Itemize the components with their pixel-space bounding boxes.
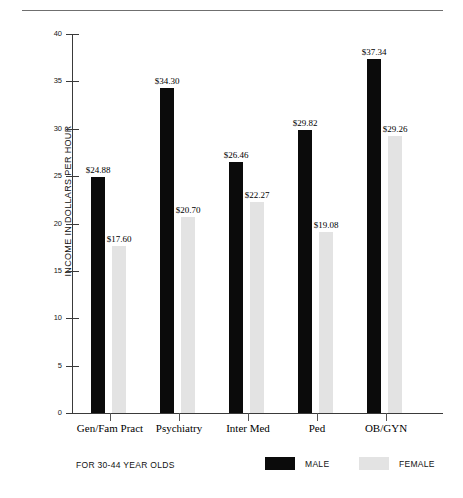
x-axis-line bbox=[72, 413, 443, 414]
bar-female-inter-med[interactable]: $22.27 bbox=[250, 202, 264, 413]
top-divider-rule bbox=[22, 10, 443, 11]
y-tick-10: 10 bbox=[66, 318, 79, 319]
x-axis-label-inter-med: Inter Med bbox=[226, 422, 270, 434]
y-tick-35: 35 bbox=[66, 81, 79, 82]
x-tick-ob-gyn bbox=[386, 413, 387, 421]
legend-entry-male: MALE bbox=[265, 457, 329, 470]
bar-label-male-ob-gyn: $37.34 bbox=[362, 47, 387, 57]
legend-label-female: FEMALE bbox=[399, 459, 435, 469]
x-axis-label-gen-fam-pract: Gen/Fam Pract bbox=[77, 422, 143, 434]
y-tick-label-15: 15 bbox=[54, 266, 62, 275]
bar-label-female-ob-gyn: $29.26 bbox=[383, 124, 408, 134]
y-tick-label-30: 30 bbox=[54, 124, 62, 133]
bar-male-inter-med[interactable]: $26.46 bbox=[229, 162, 243, 413]
x-tick-ped bbox=[317, 413, 318, 421]
y-tick-15: 15 bbox=[66, 271, 79, 272]
legend-swatch-male-icon bbox=[265, 457, 295, 470]
y-tick-label-10: 10 bbox=[54, 313, 62, 322]
bar-male-ped[interactable]: $29.82 bbox=[298, 130, 312, 413]
bar-label-female-gen-fam-pract: $17.60 bbox=[107, 234, 132, 244]
legend-entry-female: FEMALE bbox=[359, 457, 435, 470]
y-tick-5: 5 bbox=[66, 366, 79, 367]
bar-female-ped[interactable]: $19.08 bbox=[319, 232, 333, 413]
y-tick-0: 0 bbox=[66, 413, 79, 414]
y-tick-30: 30 bbox=[66, 129, 79, 130]
bar-female-ob-gyn[interactable]: $29.26 bbox=[388, 136, 402, 413]
legend-note: FOR 30-44 YEAR OLDS bbox=[76, 460, 175, 470]
bar-label-male-psychiatry: $34.30 bbox=[155, 76, 180, 86]
bar-male-ob-gyn[interactable]: $37.34 bbox=[367, 59, 381, 413]
legend-swatch-female-icon bbox=[359, 457, 389, 470]
bar-label-female-inter-med: $22.27 bbox=[245, 190, 270, 200]
bar-label-male-ped: $29.82 bbox=[293, 118, 318, 128]
legend-label-male: MALE bbox=[305, 459, 329, 469]
y-tick-40: 40 bbox=[66, 34, 79, 35]
bar-label-female-ped: $19.08 bbox=[314, 220, 339, 230]
bar-male-psychiatry[interactable]: $34.30 bbox=[160, 88, 174, 413]
bar-female-psychiatry[interactable]: $20.70 bbox=[181, 217, 195, 413]
y-tick-label-35: 35 bbox=[54, 76, 62, 85]
chart-figure: INCOME IN DOLLARS PER HOUR 40 35 30 25 2… bbox=[0, 0, 463, 498]
x-tick-inter-med bbox=[248, 413, 249, 421]
bar-label-male-inter-med: $26.46 bbox=[224, 150, 249, 160]
bar-female-gen-fam-pract[interactable]: $17.60 bbox=[112, 246, 126, 413]
bar-label-male-gen-fam-pract: $24.88 bbox=[86, 165, 111, 175]
x-axis-label-psychiatry: Psychiatry bbox=[156, 422, 202, 434]
plot-area: 40 35 30 25 20 15 10 5 0 bbox=[72, 34, 443, 413]
bar-male-gen-fam-pract[interactable]: $24.88 bbox=[91, 177, 105, 413]
y-tick-20: 20 bbox=[66, 224, 79, 225]
x-tick-gen-fam-pract bbox=[110, 413, 111, 421]
y-tick-label-40: 40 bbox=[54, 29, 62, 38]
y-tick-label-25: 25 bbox=[54, 171, 62, 180]
chart-legend: FOR 30-44 YEAR OLDS MALE FEMALE bbox=[76, 457, 446, 473]
y-tick-label-20: 20 bbox=[54, 219, 62, 228]
y-tick-label-0: 0 bbox=[58, 408, 62, 417]
x-axis-label-ped: Ped bbox=[309, 422, 326, 434]
y-tick-label-5: 5 bbox=[58, 361, 62, 370]
bar-label-female-psychiatry: $20.70 bbox=[176, 205, 201, 215]
x-tick-psychiatry bbox=[179, 413, 180, 421]
x-axis-label-ob-gyn: OB/GYN bbox=[365, 422, 407, 434]
y-tick-25: 25 bbox=[66, 176, 79, 177]
